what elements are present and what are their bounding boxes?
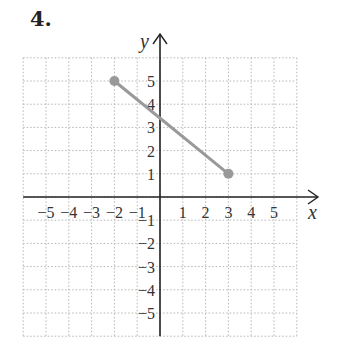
y-tick-label: −1: [138, 212, 155, 229]
x-tick-label: 1: [179, 204, 187, 221]
y-tick-label: 3: [147, 119, 155, 136]
coordinate-plane: −5−4−3−2−11234554321−1−2−3−4−5 x y: [0, 0, 337, 361]
segment-line: [114, 81, 228, 174]
x-tick-label: −5: [37, 204, 54, 221]
x-axis-label: x: [307, 201, 317, 223]
line-segment: [109, 76, 233, 179]
y-tick-label: 1: [147, 166, 155, 183]
x-tick-label: −2: [106, 204, 123, 221]
x-tick-label: 3: [224, 204, 232, 221]
x-tick-label: −4: [60, 204, 77, 221]
endpoint-dot: [109, 76, 119, 86]
y-tick-label: 2: [147, 143, 155, 160]
y-tick-label: −2: [138, 235, 155, 252]
x-tick-label: 5: [270, 204, 278, 221]
x-tick-label: 4: [247, 204, 255, 221]
coordinate-plane-figure: 4. −5−4−3−2−11234554321−1−2−3−4−5 x y: [0, 0, 337, 361]
y-axis-label: y: [138, 30, 149, 53]
y-tick-label: −5: [138, 305, 155, 322]
endpoint-dot: [223, 169, 233, 179]
x-tick-label: 2: [202, 204, 210, 221]
y-tick-label: −4: [138, 282, 155, 299]
y-tick-label: 5: [147, 73, 155, 90]
y-tick-label: −3: [138, 259, 155, 276]
x-tick-label: −3: [83, 204, 100, 221]
